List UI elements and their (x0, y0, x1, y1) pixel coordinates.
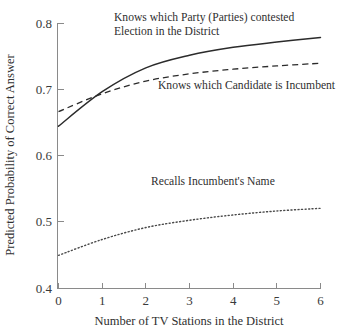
x-tick-label-3: 3 (186, 293, 193, 308)
y-tick-label-07: 0.7 (36, 82, 53, 97)
annotation-party-line-2: Election in the District (114, 25, 220, 38)
x-tick-label-5: 5 (274, 293, 281, 308)
y-axis-ticks: 0.8 0.7 0.6 0.5 0.4 (36, 16, 64, 296)
x-tick-label-1: 1 (99, 293, 106, 308)
annotation-party-line-1: Knows which Party (Parties) contested (114, 11, 295, 24)
y-tick-label-06: 0.6 (36, 148, 53, 163)
x-tick-label-4: 4 (230, 293, 237, 308)
y-tick-label-05: 0.5 (36, 214, 52, 229)
line-chart-canvas: 0.8 0.7 0.6 0.5 0.4 0 1 2 3 4 5 6 (0, 0, 344, 331)
annotation-candidate-line-1: Knows which Candidate is Incumbent (158, 79, 336, 92)
y-tick-label-08: 0.8 (36, 16, 52, 31)
x-axis-title: Number of TV Stations in the District (94, 314, 284, 328)
chart-annotations: Knows which Party (Parties) contested El… (114, 11, 336, 188)
y-tick-label-04: 0.4 (36, 281, 53, 296)
y-axis-title: Predicted Probability of Correct Answer (3, 53, 17, 255)
x-axis-ticks: 0 1 2 3 4 5 6 (55, 283, 324, 309)
x-tick-label-6: 6 (317, 293, 324, 308)
x-tick-label-0: 0 (55, 293, 62, 308)
chart-figure: 0.8 0.7 0.6 0.5 0.4 0 1 2 3 4 5 6 (0, 0, 344, 331)
chart-axes (58, 23, 322, 289)
x-tick-label-2: 2 (143, 293, 150, 308)
series-line-recalls-name (59, 208, 321, 255)
chart-series-group (59, 37, 321, 255)
annotation-recall-line-1: Recalls Incumbent's Name (151, 175, 275, 188)
